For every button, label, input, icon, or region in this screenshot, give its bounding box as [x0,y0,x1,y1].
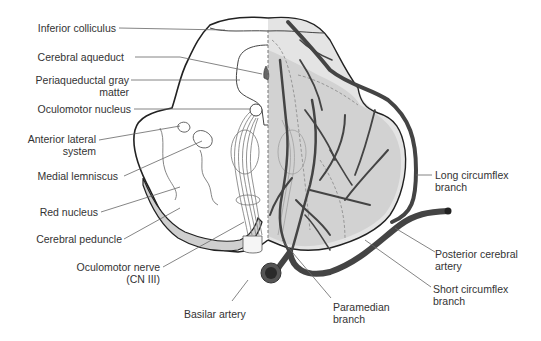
label-periaqueductal-gray-2: matter [20,86,129,98]
label-medial-lemniscus: Medial lemniscus [20,170,118,182]
label-long-circumflex-1: Long circumflex [435,169,509,181]
label-posterior-cerebral-2: artery [435,260,462,272]
label-anterior-lateral-1: Anterior lateral [10,133,96,145]
label-inferior-colliculus: Inferior colliculus [30,22,116,34]
label-paramedian-1: Paramedian [333,301,390,313]
label-oculomotor-nerve-2: (CN III) [60,273,160,285]
label-cerebral-peduncle: Cerebral peduncle [20,233,122,245]
label-basilar-artery: Basilar artery [184,308,246,320]
label-cerebral-aqueduct: Cerebral aqueduct [30,51,124,63]
label-anterior-lateral-2: system [10,145,96,157]
label-posterior-cerebral-1: Posterior cerebral [435,248,518,260]
label-long-circumflex-2: branch [435,181,467,193]
label-red-nucleus: Red nucleus [20,206,98,218]
label-oculomotor-nerve-1: Oculomotor nerve [60,261,160,273]
label-short-circumflex-1: Short circumflex [433,283,508,295]
label-oculomotor-nucleus: Oculomotor nucleus [20,103,131,115]
label-short-circumflex-2: branch [433,295,465,307]
label-paramedian-2: branch [333,313,365,325]
label-periaqueductal-gray-1: Periaqueductal gray [20,74,129,86]
